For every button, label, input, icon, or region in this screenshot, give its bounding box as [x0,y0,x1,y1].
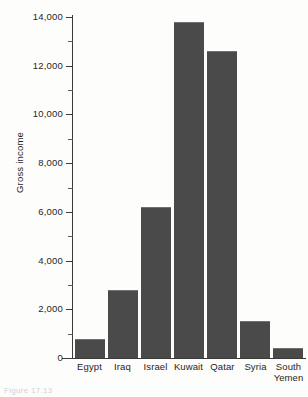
x-axis-line [62,358,306,359]
bar [108,290,138,358]
x-tick-label: Egypt [73,362,106,373]
bar [207,51,237,358]
x-tick-label: Qatar [206,362,239,373]
y-tick-major [66,358,73,359]
bar [75,339,105,358]
figure-caption: Figure 17.13 [4,386,53,395]
x-tick-label: Israel [139,362,172,373]
bar [141,207,171,358]
x-tick-label: Iraq [106,362,139,373]
bar-chart-figure: Gross income 02,0004,0006,0008,00010,000… [0,0,308,397]
bar [240,321,270,358]
bars-layer [0,0,308,358]
bar [273,348,303,358]
x-tick-label: Syria [239,362,272,373]
x-tick-label: Kuwait [172,362,205,373]
bar [174,22,204,358]
x-tick-label: SouthYemen [272,362,305,383]
